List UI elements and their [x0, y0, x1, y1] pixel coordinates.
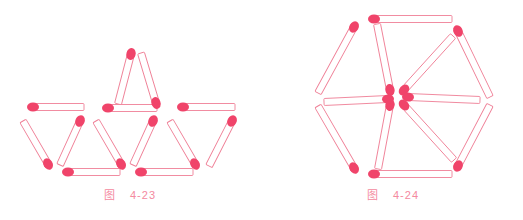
matchstick-head-t3-bottom: [135, 167, 147, 176]
matchstick-body: [374, 23, 394, 93]
figure-label-word: 图: [367, 189, 379, 202]
matchstick-head: [27, 102, 39, 111]
matchstick-head: [135, 167, 147, 176]
matchstick-head: [62, 167, 74, 176]
matchstick-body: [372, 171, 452, 178]
matchstick-spoke-ne: [400, 34, 456, 95]
matchstick-hex-upper-left: [315, 23, 358, 95]
matchstick-spoke-e: [405, 93, 480, 103]
matchstick-hex-lower-right: [454, 103, 493, 169]
matchstick-body: [372, 16, 452, 23]
matchstick-body: [400, 34, 456, 95]
figure-label-word: 图: [104, 189, 116, 202]
matchstick-body: [315, 104, 358, 172]
matchstick-hex-upper-right: [454, 27, 493, 98]
matchstick-spoke-s: [375, 102, 394, 170]
matchstick-bodies-layer: [20, 51, 236, 176]
figure-4-24-caption: 图4-24: [367, 186, 419, 202]
matchstick-hex-bottom: [372, 171, 452, 178]
figure-4-23-caption: 图4-23: [104, 186, 156, 202]
matchstick-head: [368, 169, 380, 178]
matchstick-body: [315, 23, 358, 95]
matchstick-body: [454, 27, 493, 98]
matchstick-hex-lower-left: [315, 104, 358, 172]
matchstick-head-t1-bottom: [102, 103, 114, 112]
figure-label-number: 4-24: [393, 189, 419, 201]
matchstick-head-t2-bottom: [62, 167, 74, 176]
matchstick-head-hex-bottom: [368, 169, 380, 178]
matchstick-head-mid-bar-left: [27, 102, 39, 111]
matchstick-body: [454, 103, 493, 169]
figure-label-number: 4-23: [130, 189, 156, 201]
matchstick-head-mid-bar-right: [177, 102, 189, 111]
matchstick-body: [324, 95, 391, 105]
illustration-canvas: 图4-23 图4-24: [0, 0, 523, 220]
matchstick-head: [368, 14, 380, 23]
matchstick-spoke-se: [400, 101, 457, 163]
matchstick-hex-top: [372, 16, 452, 23]
matchstick-body: [405, 93, 480, 103]
matchstick-body: [375, 102, 394, 170]
matchstick-head: [177, 102, 189, 111]
matchstick-body: [400, 101, 457, 163]
matchstick-head: [102, 103, 114, 112]
matchstick-spoke-n: [374, 23, 394, 93]
matchstick-spoke-sw: [324, 95, 391, 105]
matchstick-head-hex-top: [368, 14, 380, 23]
